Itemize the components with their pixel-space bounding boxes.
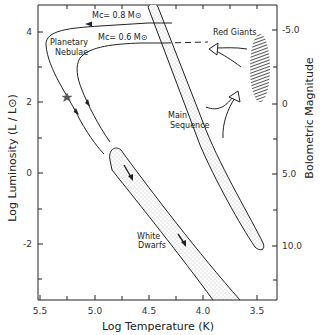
mag-tick-10: 10.0 xyxy=(282,241,302,251)
track-high-label: Mc= 0.8 M⊙ xyxy=(92,11,141,20)
white-dwarfs-label-2: Dwarfs xyxy=(138,241,166,250)
main-sequence-label-2: Sequence xyxy=(170,121,210,130)
main-seq-arrow xyxy=(206,98,232,109)
y-axis-right-ticks xyxy=(272,30,277,280)
x-tick-5.5: 5.5 xyxy=(33,306,47,316)
planetary-label-2: Nebulae xyxy=(55,48,88,57)
arrow-icon xyxy=(209,43,218,55)
x-tick-5.0: 5.0 xyxy=(88,306,103,316)
main-sequence-label-1: Main xyxy=(168,111,187,120)
x-axis-label: Log Temperature (K) xyxy=(102,320,214,333)
mag-tick-0: 0 xyxy=(282,99,288,109)
hr-diagram: 5.5 5.0 4.5 4.0 3.5 4 2 0 -2 -5.0 0 5.0 … xyxy=(0,0,320,335)
y-axis-left-label: Log Luminosity (L / L⊙) xyxy=(6,94,19,221)
x-axis-top-ticks xyxy=(67,5,257,9)
x-tick-4.0: 4.0 xyxy=(196,306,211,316)
track-mc-0-6 xyxy=(77,43,165,142)
y-tick-4: 4 xyxy=(26,27,32,37)
red-giants-region xyxy=(250,34,270,102)
mag-tick-minus5: -5.0 xyxy=(282,25,300,35)
y-tick-2: 2 xyxy=(26,97,32,107)
y-left-tick-labels: 4 2 0 -2 xyxy=(23,27,32,249)
y-tick-0: 0 xyxy=(26,168,32,178)
planetary-label-1: Planetary xyxy=(50,38,88,47)
star-marker-icon xyxy=(62,93,72,102)
white-dwarfs-label-1: White xyxy=(137,232,160,241)
red-giants-arrow-lower xyxy=(216,51,241,67)
y-right-tick-labels: -5.0 0 5.0 10.0 xyxy=(282,25,302,251)
x-tick-labels: 5.5 5.0 4.5 4.0 3.5 xyxy=(33,306,264,316)
y-axis-left-ticks xyxy=(38,32,43,279)
main-seq-arrow-lower xyxy=(223,98,235,138)
x-tick-4.5: 4.5 xyxy=(142,306,156,316)
arrow-icon xyxy=(85,22,92,27)
mag-tick-5: 5.0 xyxy=(282,169,297,179)
red-giants-arrow xyxy=(215,48,247,49)
red-giants-label: Red Giants xyxy=(213,28,256,37)
x-tick-3.5: 3.5 xyxy=(250,306,264,316)
y-tick-minus2: -2 xyxy=(23,239,32,249)
track-low-label: Mc= 0.6 M⊙ xyxy=(98,33,147,42)
y-axis-right-label: Bolometric Magnitude xyxy=(303,57,316,178)
